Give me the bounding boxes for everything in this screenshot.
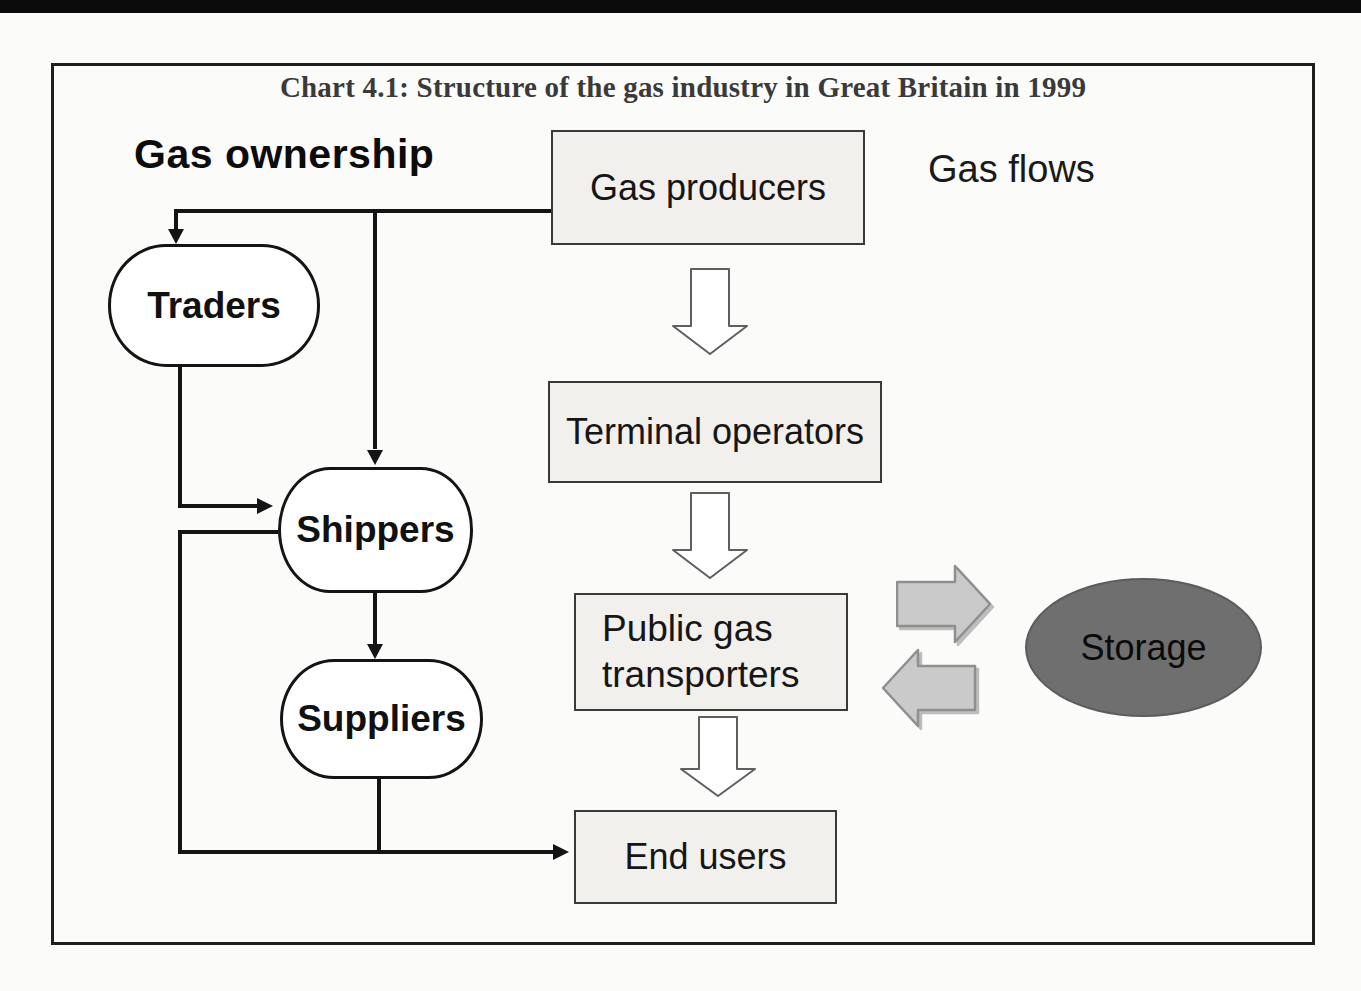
arrowhead-into-end-users [553, 844, 569, 860]
edge-shippers-to-suppliers-stem [373, 593, 377, 644]
scanned-page: Chart 4.1: Structure of the gas industry… [0, 0, 1361, 991]
edge-traders-down-vertical [178, 365, 182, 508]
node-end-users: End users [574, 810, 837, 904]
node-shippers: Shippers [278, 467, 473, 593]
flow-arrow-producers-to-terminal [671, 268, 749, 356]
node-suppliers-label: Suppliers [297, 698, 466, 740]
gas-flows-label: Gas flows [928, 148, 1095, 191]
edge-producers-to-left-horizontal [176, 209, 551, 213]
node-public-gas-transporters: Public gas transporters [574, 593, 848, 711]
edge-suppliers-down-vertical [377, 779, 381, 852]
node-suppliers: Suppliers [280, 659, 483, 779]
arrowhead-into-traders [168, 229, 184, 244]
arrowhead-into-shippers-top [367, 450, 383, 465]
node-terminal-operators-label: Terminal operators [566, 411, 864, 453]
chart-title: Chart 4.1: Structure of the gas industry… [51, 71, 1315, 104]
node-shippers-label: Shippers [296, 509, 454, 551]
node-end-users-label: End users [624, 836, 786, 878]
edge-producers-to-traders-stem [174, 209, 178, 229]
edge-left-long-vertical [178, 530, 182, 852]
node-traders-label: Traders [147, 285, 281, 327]
arrowhead-into-suppliers [367, 644, 383, 659]
flow-arrow-transporters-to-endusers [679, 716, 757, 798]
node-gas-producers: Gas producers [551, 130, 865, 245]
node-public-gas-transporters-label-line2: transporters [602, 652, 799, 698]
flow-arrow-terminal-to-transporters [671, 492, 749, 580]
block-arrow-transporters-to-storage [896, 563, 993, 645]
edge-traders-to-shippers-horizontal [180, 504, 259, 508]
node-terminal-operators: Terminal operators [548, 381, 882, 483]
edge-bottom-to-endusers-horizontal [178, 850, 555, 854]
node-gas-producers-label: Gas producers [590, 167, 826, 209]
node-storage: Storage [1025, 578, 1262, 717]
edge-producers-to-shippers-vertical [373, 209, 377, 449]
gas-ownership-label: Gas ownership [134, 131, 434, 178]
block-arrow-storage-to-transporters [881, 648, 977, 729]
arrowhead-into-shippers-left [257, 498, 273, 514]
node-traders: Traders [108, 244, 320, 367]
scan-edge-artifact [0, 0, 1361, 13]
node-storage-label: Storage [1080, 627, 1206, 669]
edge-shippers-to-left-horizontal [178, 530, 278, 534]
node-public-gas-transporters-label-line1: Public gas [602, 606, 773, 652]
